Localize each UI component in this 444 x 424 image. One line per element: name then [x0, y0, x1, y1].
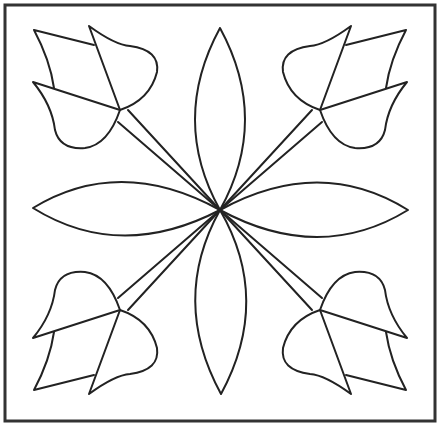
petal-right	[220, 183, 408, 238]
petal-left	[33, 182, 220, 236]
border-frame	[5, 5, 435, 421]
petal-bottom	[195, 210, 246, 394]
petal-top	[195, 28, 245, 210]
quilt-block-artwork	[0, 0, 444, 424]
tulip-bottom-left	[33, 210, 220, 394]
